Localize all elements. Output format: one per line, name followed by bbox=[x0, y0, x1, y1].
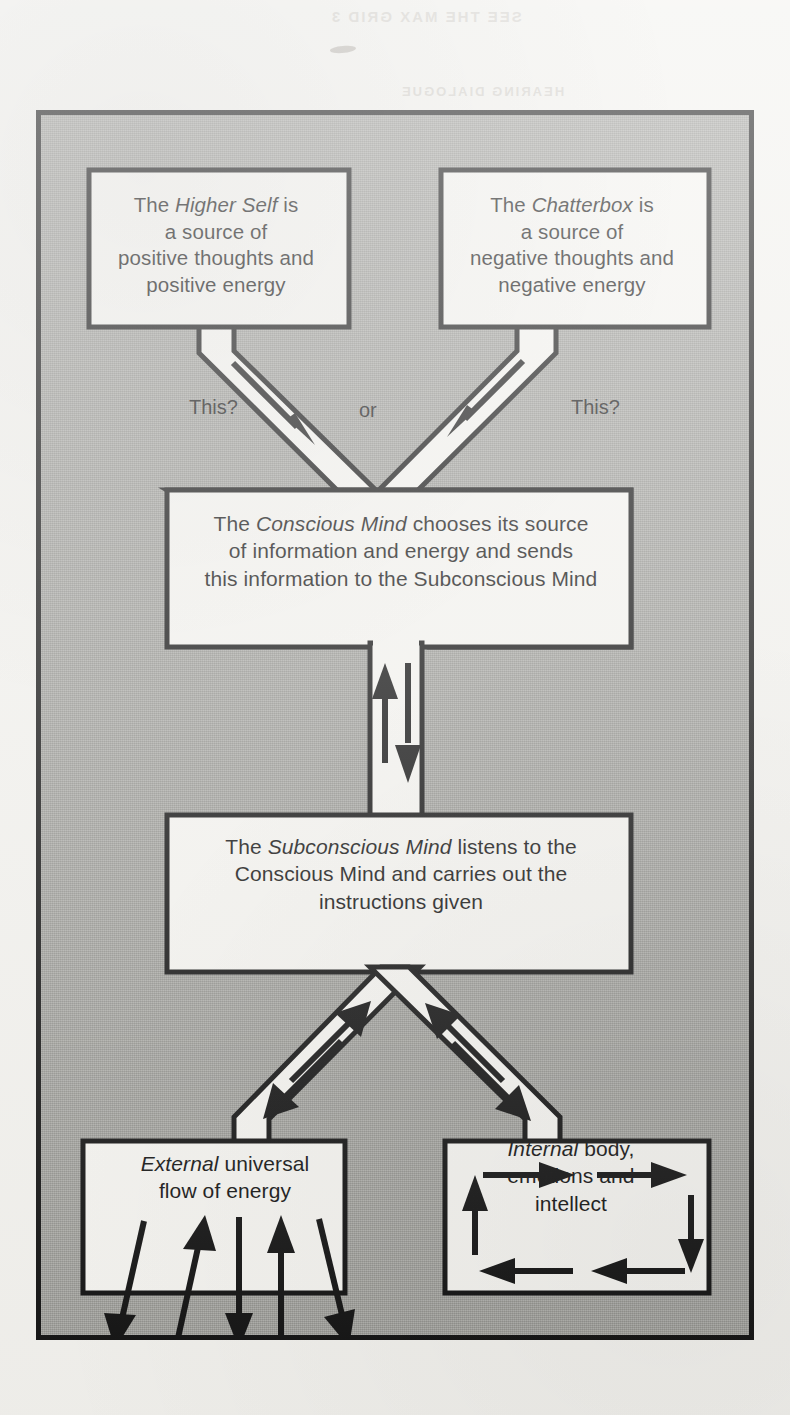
bleed-through-text-top: SEE THE MAX GRID 3 bbox=[330, 8, 522, 25]
channel-chatterbox-to-conscious bbox=[366, 325, 556, 503]
box-chatterbox bbox=[441, 170, 709, 327]
scanned-page: SEE THE MAX GRID 3 HEARING DIALOGUE .box… bbox=[0, 0, 790, 1415]
box-external-energy bbox=[83, 1141, 345, 1293]
box-subconscious-mind bbox=[167, 815, 631, 972]
arrow-up-left-internal-channel bbox=[425, 1003, 503, 1081]
flow-diagram-svg: .box { fill:#f4f3ef; stroke:#111111; str… bbox=[41, 115, 749, 1335]
arrow-down-right-left-channel bbox=[233, 363, 315, 445]
box-higher-self bbox=[89, 170, 349, 327]
diagram-frame: .box { fill:#f4f3ef; stroke:#111111; str… bbox=[36, 110, 754, 1340]
ink-smudge bbox=[330, 45, 356, 54]
channel-conscious-subconscious bbox=[370, 639, 422, 829]
arrow-up-right-external-channel bbox=[291, 1001, 371, 1081]
bleed-through-text-second: HEARING DIALOGUE bbox=[400, 84, 564, 99]
box-conscious-mind-rect bbox=[167, 490, 631, 647]
